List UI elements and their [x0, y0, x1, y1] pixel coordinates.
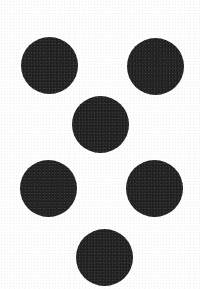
dot-top-right — [127, 38, 184, 95]
dot-top-left — [21, 37, 78, 94]
dot-middle-left — [20, 160, 77, 217]
dot-center — [72, 96, 129, 153]
dot-middle-right — [126, 160, 183, 217]
image-canvas — [0, 0, 202, 289]
dot-bottom-center — [76, 229, 133, 286]
